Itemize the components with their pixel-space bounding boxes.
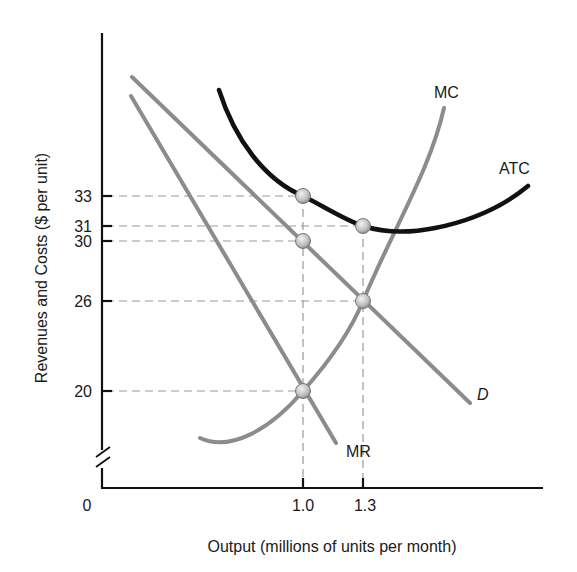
y-tick-30: 30 — [74, 233, 92, 250]
chart: MC ATC D MR 33 31 30 26 20 0 1.0 1.3 Out… — [0, 0, 577, 572]
origin-label: 0 — [83, 497, 92, 514]
mc-label: MC — [434, 84, 459, 101]
atc-label: ATC — [499, 160, 530, 177]
y-tick-26: 26 — [74, 293, 92, 310]
y-tick-20: 20 — [74, 383, 92, 400]
x-axis-title: Output (millions of units per month) — [208, 538, 457, 555]
guide-lines — [106, 196, 363, 486]
y-tick-33: 33 — [74, 188, 92, 205]
axes — [96, 33, 543, 489]
mr-label: MR — [346, 443, 371, 460]
demand-label: D — [477, 386, 489, 403]
y-axis-title: Revenues and Costs ($ per unit) — [33, 153, 50, 383]
atc-curve — [219, 90, 528, 232]
x-tick-1-3: 1.3 — [354, 497, 376, 514]
x-tick-1-0: 1.0 — [292, 497, 314, 514]
